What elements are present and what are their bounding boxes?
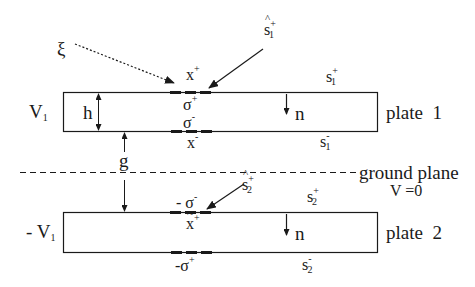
gap-label: g bbox=[119, 151, 129, 170]
plate-2-top-surface-label: s+2 bbox=[307, 189, 317, 205]
plate-1-ray-label: ^s+1 bbox=[264, 22, 274, 38]
plates-diagram bbox=[0, 0, 475, 287]
plate-2-bottom-surface-label: s-2 bbox=[302, 257, 313, 273]
ground-plane-label: ground plane bbox=[359, 163, 459, 182]
source-ray-arrow bbox=[75, 44, 174, 83]
thickness-label: h bbox=[83, 103, 93, 122]
plate-1-top-surface-label: s+1 bbox=[326, 69, 336, 85]
plate-2-ray-label: ^s+2 bbox=[242, 177, 252, 193]
plate-1-top-point-label: x+ bbox=[186, 67, 200, 83]
ground-plane-potential: V =0 bbox=[390, 183, 422, 199]
plate-1-bottom-density-label: σ- bbox=[183, 115, 195, 131]
plate-1-rect bbox=[64, 93, 378, 132]
plate-2-bottom-density-label: -σ+ bbox=[175, 258, 195, 274]
plate-1-label: plate 1 bbox=[386, 103, 442, 122]
plate-1-normal-label: n bbox=[295, 104, 305, 123]
plate-2-label: plate 2 bbox=[386, 223, 442, 242]
plate-1-top-density-label: σ+ bbox=[183, 97, 197, 113]
plate-2-voltage-label: - V1 bbox=[26, 222, 55, 241]
plate-1-voltage-label: V1 bbox=[29, 102, 48, 121]
plate-1-bottom-surface-label: s-1 bbox=[320, 134, 331, 150]
plate-2-rect bbox=[64, 213, 378, 253]
source-label: ξ bbox=[57, 39, 65, 58]
ray-arrow-plate-2 bbox=[207, 184, 244, 209]
ray-arrow-plate-1 bbox=[209, 49, 263, 88]
plate-2-top-point-label: ~x+ bbox=[186, 216, 200, 232]
plate-1-bottom-point-label: x- bbox=[187, 135, 198, 151]
plate-2-normal-label: n bbox=[295, 224, 305, 243]
